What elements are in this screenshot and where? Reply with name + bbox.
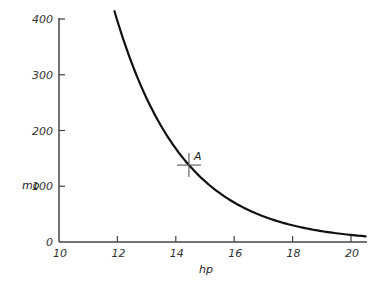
data-curve <box>114 11 365 236</box>
y-tick-label: 0 <box>46 236 53 249</box>
point-a-label: A <box>193 150 202 163</box>
x-tick-label: 12 <box>111 247 125 260</box>
y-tick-label: 300 <box>32 69 53 82</box>
x-axis-label: hp <box>199 263 213 276</box>
x-ticks: 101214161820 <box>53 236 359 260</box>
x-tick-label: 20 <box>345 247 359 260</box>
chart: 0100200300400 101214161820 mo hp A <box>0 0 378 282</box>
y-tick-label: 200 <box>32 125 53 138</box>
x-tick-label: 10 <box>53 247 67 260</box>
y-axis-label: mo <box>22 179 40 192</box>
x-tick-label: 14 <box>170 247 184 260</box>
y-tick-label: 400 <box>32 13 53 26</box>
y-ticks: 0100200300400 <box>32 13 65 249</box>
x-tick-label: 18 <box>287 247 301 260</box>
x-tick-label: 16 <box>228 247 242 260</box>
